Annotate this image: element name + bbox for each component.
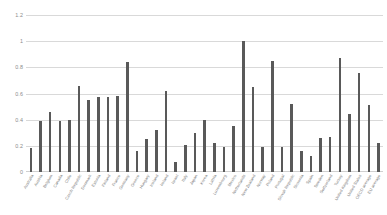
bar	[136, 151, 139, 172]
bar-slot	[209, 15, 219, 172]
y-tick-label: 0.6	[15, 91, 23, 97]
bar-slot	[36, 15, 46, 172]
bar-slot	[374, 15, 384, 172]
bar	[155, 130, 158, 172]
bar	[261, 147, 264, 172]
bar-slot	[45, 15, 55, 172]
x-label-slot: Belgium	[45, 172, 55, 212]
bar	[348, 114, 351, 172]
x-label-slot: Canada	[55, 172, 65, 212]
bar-slot	[229, 15, 239, 172]
bar	[377, 143, 380, 172]
x-label-slot: Korea	[200, 172, 210, 212]
bar-slot	[113, 15, 123, 172]
x-label-slot: Switzerland	[325, 172, 335, 212]
bar-slot	[258, 15, 268, 172]
bar-slot	[200, 15, 210, 172]
x-label-slot: Ireland	[161, 172, 171, 212]
x-tick-label: Norway	[256, 174, 267, 188]
bar-slot	[345, 15, 355, 172]
bar-slot	[84, 15, 94, 172]
bar-slot	[132, 15, 142, 172]
bar-series	[26, 15, 383, 172]
bar-slot	[364, 15, 374, 172]
y-tick-label: 0.8	[15, 64, 23, 70]
x-tick-label: Israel	[171, 174, 180, 185]
y-tick-label: 0.4	[15, 117, 23, 123]
bar	[290, 104, 293, 172]
bar	[358, 73, 361, 172]
bar	[194, 133, 197, 172]
bar	[319, 138, 322, 172]
bar	[39, 121, 42, 172]
bar-slot	[325, 15, 335, 172]
bar	[271, 61, 274, 172]
bar	[87, 100, 90, 172]
bar	[339, 58, 342, 172]
x-label-slot: Austria	[36, 172, 46, 212]
bar-slot	[181, 15, 191, 172]
bar	[145, 139, 148, 172]
y-tick-label: 1	[20, 38, 23, 44]
bar	[59, 121, 62, 172]
x-label-slot: Greece	[132, 172, 142, 212]
y-axis: 00.20.40.60.811.2	[0, 15, 23, 172]
x-label-slot: Germany	[123, 172, 133, 212]
bar-slot	[267, 15, 277, 172]
bar-slot	[103, 15, 113, 172]
x-tick-label: Korea	[199, 174, 208, 186]
bar	[368, 105, 371, 172]
bar	[116, 96, 119, 172]
plot-area	[26, 15, 383, 172]
x-label-slot: Poland	[267, 172, 277, 212]
bar	[242, 41, 245, 172]
bar-slot	[287, 15, 297, 172]
bar	[213, 143, 216, 172]
bar-slot	[26, 15, 36, 172]
bar-slot	[65, 15, 75, 172]
bar-slot	[219, 15, 229, 172]
bar-slot	[277, 15, 287, 172]
x-label-slot: Slovenia	[296, 172, 306, 212]
bar	[281, 147, 284, 172]
x-label-slot: Slovak Republic	[287, 172, 297, 212]
x-label-slot: Luxembourg	[219, 172, 229, 212]
x-label-slot: Finland	[103, 172, 113, 212]
bar-slot	[142, 15, 152, 172]
x-label-slot: Japan	[190, 172, 200, 212]
x-label-slot: Italy	[181, 172, 191, 212]
x-label-slot: Hungary	[142, 172, 152, 212]
bar-slot	[74, 15, 84, 172]
bar-slot	[296, 15, 306, 172]
bar-slot	[316, 15, 326, 172]
bar	[68, 120, 71, 172]
bar	[78, 86, 81, 172]
x-label-slot: Australia	[26, 172, 36, 212]
bar-slot	[238, 15, 248, 172]
bar-slot	[171, 15, 181, 172]
x-label-slot: Norway	[258, 172, 268, 212]
x-tick-label: Japan	[189, 174, 199, 186]
bar	[184, 145, 187, 172]
bar-slot	[335, 15, 345, 172]
bar	[165, 91, 168, 172]
bar-slot	[190, 15, 200, 172]
x-label-slot: Iceland	[152, 172, 162, 212]
bar	[203, 120, 206, 172]
x-label-slot: New Zealand	[248, 172, 258, 212]
x-tick-label: Ireland	[160, 174, 170, 187]
bar	[223, 147, 226, 172]
bar-slot	[55, 15, 65, 172]
bar	[174, 162, 177, 172]
x-label-slot: Estonia	[94, 172, 104, 212]
x-axis-labels: AustraliaAustriaBelgiumCanadaChileCzech …	[26, 172, 383, 212]
bar-slot	[248, 15, 258, 172]
y-tick-label: 1.2	[15, 12, 23, 18]
x-tick-label: Iceland	[150, 174, 161, 188]
bar	[329, 137, 332, 172]
bar	[310, 156, 313, 172]
x-label-slot: France	[113, 172, 123, 212]
x-label-slot: Czech Republic	[74, 172, 84, 212]
bar-slot	[354, 15, 364, 172]
bar	[30, 148, 33, 172]
